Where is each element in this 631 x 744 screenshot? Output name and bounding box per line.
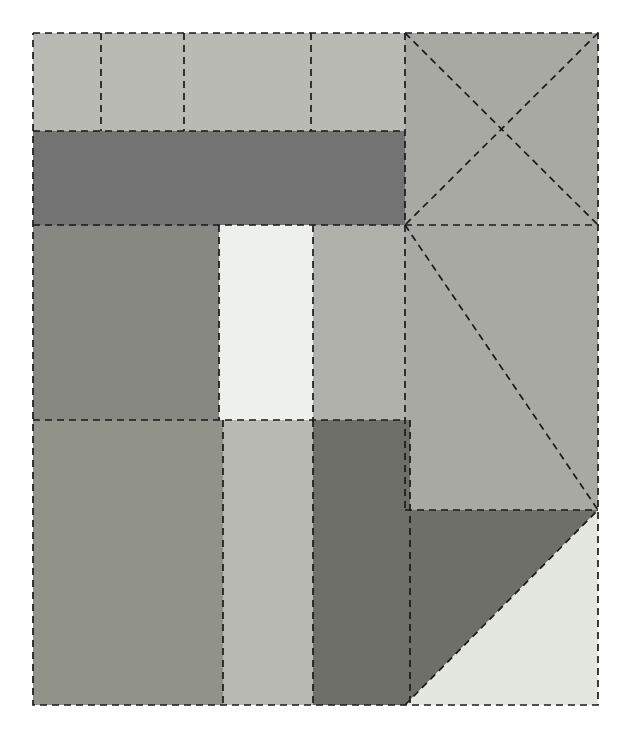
horizontal-dark-band xyxy=(33,131,405,225)
figure-canvas xyxy=(0,0,631,744)
regions-layer xyxy=(33,33,598,705)
top-row-cell-1 xyxy=(33,33,101,131)
middle-highlight-block xyxy=(219,225,313,420)
middle-right-block xyxy=(313,225,405,420)
top-row-cell-2 xyxy=(101,33,184,131)
middle-left-block xyxy=(33,225,219,420)
top-row-cell-4 xyxy=(311,33,405,131)
geometric-partition-figure xyxy=(0,0,631,744)
lower-left-block xyxy=(33,420,223,705)
top-row-cell-3 xyxy=(184,33,311,131)
lower-middle-block xyxy=(223,420,313,705)
lower-dark-block xyxy=(313,420,410,705)
